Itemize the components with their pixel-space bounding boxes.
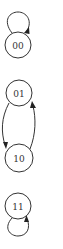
arrow-00-loop-icon [24,27,30,34]
node-10: 10 [5,144,33,172]
node-00: 00 [5,32,31,58]
node-label: 11 [12,202,23,212]
arrow-10-01-icon [30,101,36,108]
state-diagram: 00 01 10 11 [0,0,63,249]
edge-01-to-10 [2,103,9,145]
edge-00-to-00 [7,12,29,33]
node-label: 00 [12,41,24,51]
arrow-01-10-icon [3,142,8,149]
node-label: 10 [13,154,25,164]
edge-10-to-01 [30,106,35,149]
node-label: 01 [13,89,24,99]
node-01: 01 [6,80,32,106]
node-11: 11 [5,193,31,219]
